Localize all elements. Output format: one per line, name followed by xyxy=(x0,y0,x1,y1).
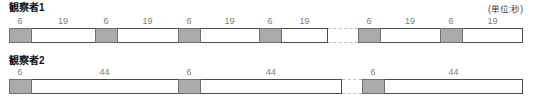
shaded-segment xyxy=(9,79,32,94)
bar-run xyxy=(9,28,328,43)
unit-note: (単位:秒) xyxy=(488,4,523,15)
shaded-segment xyxy=(362,79,385,94)
bar-run xyxy=(9,79,342,94)
observer1-label: 観察者1 xyxy=(9,2,45,14)
observer1-bar xyxy=(0,15,539,44)
shaded-segment xyxy=(440,28,463,43)
bar-break-gap xyxy=(342,79,362,94)
bar-break-gap xyxy=(328,28,358,43)
observer1-timeline: 619619619619619619 xyxy=(0,15,539,44)
shaded-segment xyxy=(95,28,118,43)
bar-run xyxy=(358,28,523,43)
shaded-segment xyxy=(259,28,282,43)
shaded-segment xyxy=(9,28,32,43)
observer2-bar xyxy=(0,66,539,95)
observer2-timeline: 644644644 xyxy=(0,66,539,95)
shaded-segment xyxy=(358,28,381,43)
shaded-segment xyxy=(178,79,201,94)
bar-run xyxy=(362,79,523,94)
shaded-segment xyxy=(178,28,201,43)
observation-timeline-figure: (単位:秒) 観察者1 619619619619619619 観察者2 6446… xyxy=(0,0,539,103)
